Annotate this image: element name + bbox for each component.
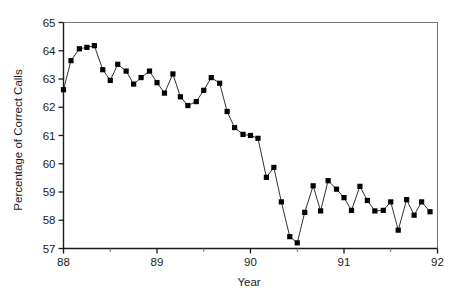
data-point-marker xyxy=(318,208,323,213)
y-tick-label: 63 xyxy=(43,73,56,85)
chart-figure: 8889909192 575859606162636465 Year Perce… xyxy=(0,0,459,294)
data-point-marker xyxy=(92,43,97,48)
data-point-marker xyxy=(287,234,292,239)
data-point-marker xyxy=(279,199,284,204)
data-point-marker xyxy=(170,71,175,76)
data-point-marker xyxy=(381,208,386,213)
data-point-marker xyxy=(388,199,393,204)
data-point-marker xyxy=(68,58,73,63)
data-point-marker xyxy=(201,88,206,93)
y-tick-label: 61 xyxy=(43,130,56,142)
data-point-marker xyxy=(61,87,66,92)
y-tick-label: 60 xyxy=(43,158,56,170)
x-tick-label: 89 xyxy=(151,256,164,268)
x-axis-title: Year xyxy=(237,276,260,288)
x-tick-label: 91 xyxy=(338,256,351,268)
x-tick-label: 90 xyxy=(244,256,257,268)
data-point-marker xyxy=(154,80,159,85)
y-axis-tick-labels: 575859606162636465 xyxy=(43,17,56,255)
data-point-marker xyxy=(162,91,167,96)
data-point-marker xyxy=(217,81,222,86)
data-point-marker xyxy=(139,75,144,80)
y-tick-label: 65 xyxy=(43,17,56,29)
data-point-marker xyxy=(84,45,89,50)
y-tick-label: 59 xyxy=(43,186,56,198)
line-chart: 8889909192 575859606162636465 Year Perce… xyxy=(0,0,459,294)
data-point-marker xyxy=(185,103,190,108)
data-point-marker xyxy=(264,175,269,180)
data-point-marker xyxy=(131,81,136,86)
data-point-marker xyxy=(372,208,377,213)
data-point-marker xyxy=(124,68,129,73)
data-point-marker xyxy=(326,178,331,183)
data-point-marker xyxy=(396,228,401,233)
data-point-marker xyxy=(357,184,362,189)
data-point-marker xyxy=(349,208,354,213)
y-tick-label: 64 xyxy=(43,45,56,57)
data-point-marker xyxy=(209,75,214,80)
y-axis-title: Percentage of Correct Calls xyxy=(12,69,24,211)
x-tick-label: 88 xyxy=(57,256,70,268)
data-point-marker xyxy=(225,109,230,114)
y-tick-label: 62 xyxy=(43,101,56,113)
data-point-marker xyxy=(404,197,409,202)
data-point-marker xyxy=(248,133,253,138)
data-point-marker xyxy=(108,78,113,83)
data-point-marker xyxy=(427,209,432,214)
data-point-marker xyxy=(419,199,424,204)
data-point-marker xyxy=(194,99,199,104)
data-point-marker xyxy=(240,132,245,137)
data-point-marker xyxy=(100,67,105,72)
y-tick-label: 58 xyxy=(43,214,56,226)
data-point-marker xyxy=(178,94,183,99)
data-point-marker xyxy=(255,136,260,141)
data-point-marker xyxy=(295,240,300,245)
data-point-marker xyxy=(365,198,370,203)
data-point-marker xyxy=(302,210,307,215)
data-point-marker xyxy=(412,213,417,218)
data-point-marker xyxy=(115,62,120,67)
data-point-marker xyxy=(334,187,339,192)
data-point-marker xyxy=(232,125,237,130)
y-tick-label: 57 xyxy=(43,243,56,255)
data-point-marker xyxy=(271,165,276,170)
data-point-marker xyxy=(77,46,82,51)
data-point-marker xyxy=(341,195,346,200)
chart-background xyxy=(0,0,459,294)
data-point-marker xyxy=(311,183,316,188)
x-tick-label: 92 xyxy=(431,256,444,268)
data-point-marker xyxy=(147,68,152,73)
